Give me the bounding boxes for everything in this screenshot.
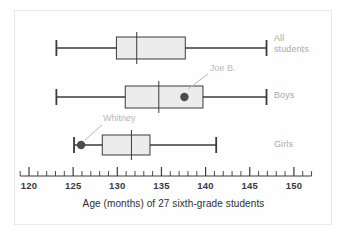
- axis-tick-label: 135: [153, 180, 169, 191]
- axis-tick-label: 130: [109, 180, 125, 191]
- series-label-boys: Boys: [274, 90, 294, 101]
- figure-caption: Age (months) of 27 sixth-grade students: [0, 198, 347, 209]
- box-iqr: [125, 86, 203, 108]
- axis-tick-label: 145: [242, 180, 258, 191]
- box-plot-all-students: [56, 32, 266, 64]
- axis-tick-label: 120: [21, 180, 37, 191]
- box-plot-girls: [74, 130, 216, 160]
- series-label-girls: Girls: [274, 139, 293, 150]
- boxplot-figure: All students Boys Girls Joe B. Whitney 1…: [0, 0, 347, 241]
- box-iqr: [116, 37, 185, 59]
- series-label-all-students: All students: [274, 33, 309, 54]
- axis-tick-label: 140: [197, 180, 213, 191]
- box-iqr: [102, 135, 150, 155]
- data-point-joe-b: [180, 93, 188, 101]
- axis-tick-label: 150: [286, 180, 302, 191]
- annotation-leader: [85, 125, 102, 140]
- annotation-whitney: Whitney: [103, 113, 136, 123]
- data-point-whitney: [77, 141, 85, 149]
- box-plot-boys: [56, 81, 266, 113]
- axis-tick-label: 125: [65, 180, 81, 191]
- annotation-joe-b: Joe B.: [210, 63, 236, 73]
- axis-group: [20, 167, 311, 176]
- box-plots-group: [56, 32, 266, 160]
